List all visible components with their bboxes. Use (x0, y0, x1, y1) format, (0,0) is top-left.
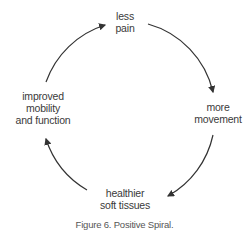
node-more-movement: more movement (188, 101, 248, 125)
arrow-more-movement-to-healthier-soft-tissues (168, 135, 213, 196)
node-line: more (188, 101, 248, 113)
arrow-less-pain-to-more-movement (148, 24, 213, 92)
arrow-healthier-soft-tissues-to-improved-mobility (46, 139, 87, 190)
node-improved-mobility: improved mobility and function (5, 90, 81, 126)
node-line: improved (5, 90, 81, 102)
node-line: less (105, 10, 145, 22)
node-line: mobility (5, 102, 81, 114)
figure-caption: Figure 6. Positive Spiral. (0, 219, 249, 230)
node-line: pain (105, 22, 145, 34)
node-line: and function (5, 114, 81, 126)
node-less-pain: less pain (105, 10, 145, 34)
arrow-improved-mobility-to-less-pain (46, 25, 105, 82)
node-line: soft tissues (92, 199, 158, 211)
node-line: healthier (92, 187, 158, 199)
node-line: movement (188, 113, 248, 125)
node-healthier-soft-tissues: healthier soft tissues (92, 187, 158, 211)
